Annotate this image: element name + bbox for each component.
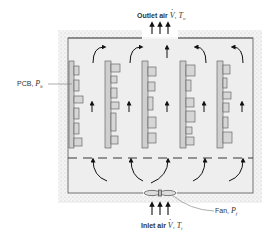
fan-icon xyxy=(143,190,177,196)
enclosure-diagram xyxy=(0,0,276,238)
inlet-arrows xyxy=(152,204,168,215)
outlet-air-label: Outlet air V, To xyxy=(137,12,185,21)
pcb-label: PCB, Pb xyxy=(17,80,43,89)
fan-label: Fan, Pf xyxy=(215,207,237,216)
inlet-air-label: Inlet air V, Ti xyxy=(141,222,182,231)
enclosure-walls xyxy=(58,29,262,203)
